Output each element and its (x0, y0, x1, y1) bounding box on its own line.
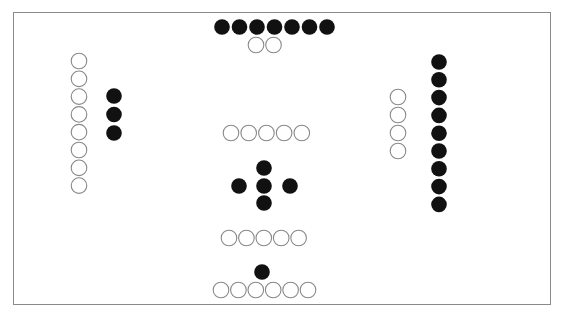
filled-dot (431, 72, 447, 88)
hollow-dot (71, 53, 87, 69)
hollow-dot (259, 125, 275, 141)
filled-dot (431, 161, 447, 177)
right-hollow-column (390, 89, 406, 159)
filled-dot (282, 178, 298, 194)
filled-dot (106, 107, 122, 123)
hollow-dot (223, 125, 239, 141)
center-upper-hollow-row (223, 125, 309, 141)
filled-dot (232, 19, 248, 35)
hollow-dot (71, 142, 87, 158)
filled-dot (431, 54, 447, 70)
dot-diagram (0, 0, 563, 316)
hollow-dot (221, 230, 237, 246)
hollow-dot (248, 37, 264, 53)
bottom-hollow-row (213, 282, 316, 298)
hollow-dot (390, 89, 406, 105)
filled-dot (267, 19, 283, 35)
filled-dot (431, 90, 447, 106)
left-filled-column (106, 88, 122, 141)
filled-dot (431, 108, 447, 124)
filled-dot (431, 143, 447, 159)
hollow-dot (71, 89, 87, 105)
hollow-dot (241, 125, 257, 141)
hollow-dot (71, 160, 87, 176)
filled-dot (302, 19, 318, 35)
filled-dot (319, 19, 335, 35)
hollow-dot (300, 282, 316, 298)
filled-dot (256, 178, 272, 194)
hollow-dot (276, 125, 292, 141)
hollow-dot (390, 143, 406, 159)
filled-dot (431, 197, 447, 213)
top-hollow-row (248, 37, 281, 53)
hollow-dot (239, 230, 255, 246)
center-cross (231, 160, 298, 211)
filled-dot (249, 19, 265, 35)
hollow-dot (390, 107, 406, 123)
filled-dot (254, 264, 270, 280)
top-filled-row (214, 19, 335, 35)
filled-dot (256, 195, 272, 211)
hollow-dot (273, 230, 289, 246)
right-filled-column (431, 54, 447, 212)
hollow-dot (248, 282, 264, 298)
hollow-dot (231, 282, 247, 298)
hollow-dot (291, 230, 307, 246)
filled-dot (284, 19, 300, 35)
filled-dot (256, 160, 272, 176)
filled-dot (431, 125, 447, 141)
hollow-dot (266, 37, 282, 53)
filled-dot (106, 125, 122, 141)
hollow-dot (294, 125, 310, 141)
hollow-dot (256, 230, 272, 246)
left-hollow-column (71, 53, 87, 193)
filled-dot (106, 88, 122, 104)
hollow-dot (390, 125, 406, 141)
hollow-dot (283, 282, 299, 298)
bottom-single-filled (254, 264, 270, 280)
hollow-dot (265, 282, 281, 298)
hollow-dot (71, 178, 87, 194)
hollow-dot (213, 282, 229, 298)
center-lower-hollow-row (221, 230, 306, 246)
hollow-dot (71, 71, 87, 87)
filled-dot (431, 179, 447, 195)
filled-dot (231, 178, 247, 194)
filled-dot (214, 19, 230, 35)
hollow-dot (71, 107, 87, 123)
hollow-dot (71, 124, 87, 140)
